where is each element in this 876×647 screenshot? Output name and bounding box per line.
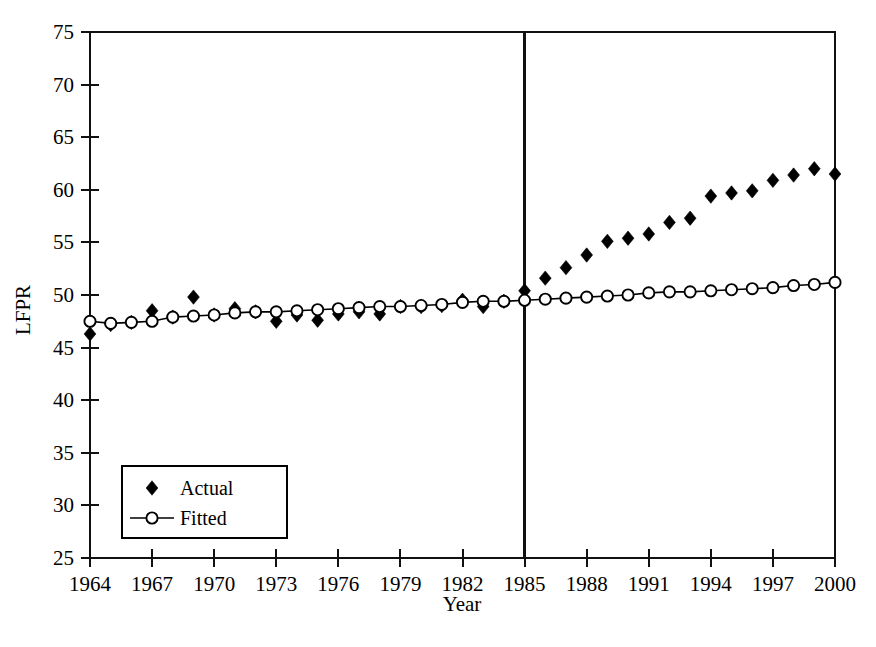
fitted-data-point — [643, 287, 654, 298]
fitted-data-point — [395, 301, 406, 312]
x-axis-title: Year — [443, 592, 482, 616]
chart-legend: ActualFitted — [122, 466, 287, 538]
fitted-data-point — [581, 292, 592, 303]
x-tick-label: 1976 — [317, 572, 359, 596]
fitted-data-point — [457, 297, 468, 308]
fitted-data-point — [809, 279, 820, 290]
fitted-data-point — [478, 296, 489, 307]
fitted-data-point — [622, 289, 633, 300]
fitted-data-point — [167, 311, 178, 322]
fitted-data-point — [312, 304, 323, 315]
y-axis-title: LFPR — [11, 285, 35, 335]
fitted-data-point — [271, 306, 282, 317]
lfpr-line-scatter-chart: 1964196719701973197619791982198519881991… — [0, 0, 876, 647]
fitted-data-point — [788, 280, 799, 291]
fitted-data-point — [105, 318, 116, 329]
fitted-data-point — [333, 303, 344, 314]
fitted-data-point — [353, 302, 364, 313]
y-tick-label: 40 — [53, 388, 74, 412]
fitted-data-point — [519, 295, 530, 306]
fitted-data-point — [747, 283, 758, 294]
fitted-data-point — [705, 285, 716, 296]
x-tick-label: 1973 — [255, 572, 297, 596]
y-tick-label: 45 — [53, 336, 74, 360]
fitted-data-point — [664, 286, 675, 297]
x-tick-label: 1979 — [379, 572, 421, 596]
x-tick-label: 1991 — [628, 572, 670, 596]
fitted-data-point — [726, 284, 737, 295]
x-tick-label: 1964 — [69, 572, 112, 596]
y-tick-label: 75 — [53, 20, 74, 44]
y-tick-label: 60 — [53, 178, 74, 202]
fitted-data-point — [146, 316, 157, 327]
fitted-data-point — [829, 277, 840, 288]
fitted-data-point — [291, 305, 302, 316]
legend-circle-marker — [146, 512, 157, 523]
y-tick-label: 70 — [53, 73, 74, 97]
y-tick-label: 55 — [53, 230, 74, 254]
fitted-data-point — [374, 301, 385, 312]
fitted-data-point — [540, 294, 551, 305]
fitted-data-point — [498, 296, 509, 307]
fitted-data-point — [602, 290, 613, 301]
y-tick-label: 30 — [53, 493, 74, 517]
fitted-data-point — [126, 317, 137, 328]
fitted-data-point — [84, 316, 95, 327]
fitted-data-point — [209, 309, 220, 320]
x-tick-label: 1988 — [566, 572, 608, 596]
x-tick-label: 1970 — [193, 572, 235, 596]
fitted-data-point — [560, 293, 571, 304]
fitted-data-point — [229, 307, 240, 318]
x-tick-label: 1985 — [504, 572, 546, 596]
legend-label: Actual — [180, 477, 234, 499]
y-tick-label: 35 — [53, 441, 74, 465]
x-tick-label: 2000 — [814, 572, 856, 596]
fitted-data-point — [767, 282, 778, 293]
x-tick-label: 1967 — [131, 572, 173, 596]
y-tick-label: 50 — [53, 283, 74, 307]
x-tick-label: 1994 — [690, 572, 733, 596]
x-tick-label: 1997 — [752, 572, 794, 596]
fitted-data-point — [416, 300, 427, 311]
fitted-data-point — [188, 310, 199, 321]
fitted-data-point — [250, 306, 261, 317]
chart-container: 1964196719701973197619791982198519881991… — [0, 0, 876, 647]
fitted-data-point — [685, 286, 696, 297]
legend-label: Fitted — [180, 507, 227, 529]
y-tick-label: 25 — [53, 546, 74, 570]
fitted-data-point — [436, 299, 447, 310]
y-tick-label: 65 — [53, 125, 74, 149]
